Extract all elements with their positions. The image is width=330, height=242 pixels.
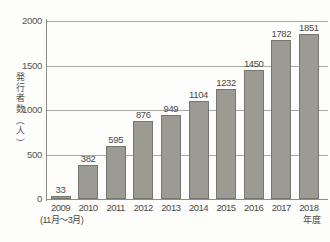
y-tick-label-1500: 1500 (2, 60, 42, 71)
footer-caption-strip (0, 236, 330, 242)
x-tick-label-2014: 2014 (184, 202, 214, 213)
bar-value-2015: 1232 (208, 77, 244, 88)
bar-2011 (106, 146, 126, 199)
bar-2013 (161, 115, 181, 199)
y-tick-label-1000: 1000 (2, 104, 42, 115)
x-tick-label-2009: 2009 (46, 202, 76, 213)
y-axis-label-char-1: 行 (12, 83, 28, 94)
bar-value-2014: 1104 (181, 89, 217, 100)
x-tick-label-2010: 2010 (73, 202, 103, 213)
y-axis-label-char-2: 者 (12, 93, 28, 104)
bar-2015 (216, 89, 236, 199)
bar-value-2013: 949 (153, 103, 189, 114)
bar-value-2011: 595 (98, 134, 134, 145)
y-axis-unit-close-paren: ） (15, 134, 26, 150)
x-axis-line (46, 199, 328, 200)
bar-2009 (51, 196, 71, 199)
x-tick-label-2011: 2011 (101, 202, 131, 213)
x-tick-label-2012: 2012 (128, 202, 158, 213)
bar-2017 (271, 40, 291, 199)
bar-2012 (133, 121, 153, 199)
bar-value-2018: 1851 (291, 22, 327, 33)
x-tick-label-2013: 2013 (156, 202, 186, 213)
y-axis-label-char-0: 発 (12, 72, 28, 83)
bar-2018 (299, 34, 319, 199)
bar-chart: 発 行 者 数 （ 人 ） 0500100015002000 333825958… (0, 0, 330, 242)
x-tick-label-2017: 2017 (266, 202, 296, 213)
first-category-note: (11月～3月) (40, 213, 83, 226)
x-tick-label-2018: 2018 (294, 202, 324, 213)
bar-2016 (244, 70, 264, 199)
bar-value-2009: 33 (43, 184, 79, 195)
y-axis-line (46, 19, 47, 201)
x-tick-label-2016: 2016 (239, 202, 269, 213)
y-tick-label-2000: 2000 (2, 15, 42, 26)
y-tick-label-500: 500 (2, 149, 42, 160)
bar-value-2010: 382 (70, 153, 106, 164)
last-category-note: 年度 (297, 213, 327, 226)
bar-value-2016: 1450 (236, 58, 272, 69)
bar-2014 (189, 101, 209, 199)
y-tick-label-0: 0 (2, 193, 42, 204)
gridline-2000 (46, 21, 328, 22)
bar-2010 (78, 165, 98, 199)
x-tick-label-2015: 2015 (211, 202, 241, 213)
